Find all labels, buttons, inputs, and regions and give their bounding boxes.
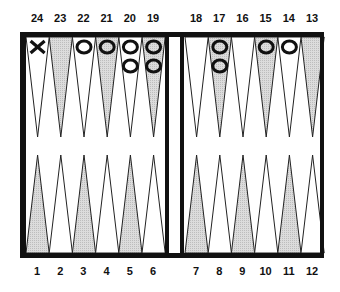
- point-2[interactable]: [49, 155, 72, 253]
- point-16[interactable]: [231, 37, 254, 137]
- point-23[interactable]: [49, 37, 72, 137]
- bar-left-edge: [165, 32, 169, 258]
- point-1[interactable]: [26, 155, 49, 253]
- point-3[interactable]: [72, 155, 95, 253]
- point-9[interactable]: [231, 155, 254, 253]
- backgammon-board: [0, 0, 340, 292]
- point-24[interactable]: [26, 37, 49, 137]
- point-18[interactable]: [185, 37, 208, 137]
- point-10[interactable]: [255, 155, 278, 253]
- point-8[interactable]: [208, 155, 231, 253]
- bar-right-edge: [180, 32, 184, 258]
- point-11[interactable]: [278, 155, 301, 253]
- point-6[interactable]: [142, 155, 165, 253]
- point-7[interactable]: [185, 155, 208, 253]
- point-5[interactable]: [119, 155, 142, 253]
- points-layer: [26, 37, 324, 253]
- point-4[interactable]: [96, 155, 119, 253]
